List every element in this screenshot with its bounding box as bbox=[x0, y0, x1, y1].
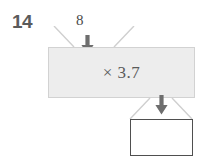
answer-box[interactable] bbox=[130, 119, 193, 156]
arrow-down-icon bbox=[155, 95, 168, 115]
answer-value[interactable] bbox=[131, 120, 192, 155]
problem-number: 14 bbox=[12, 12, 32, 31]
operation-box: × 3.7 bbox=[48, 47, 195, 98]
input-funnel-lines bbox=[48, 26, 195, 48]
arrow-down-glyph bbox=[155, 95, 168, 115]
operation-label: × 3.7 bbox=[49, 63, 194, 83]
worksheet-problem-diagram: 14 8 × 3.7 bbox=[0, 0, 208, 166]
input-funnel-svg bbox=[48, 26, 195, 48]
